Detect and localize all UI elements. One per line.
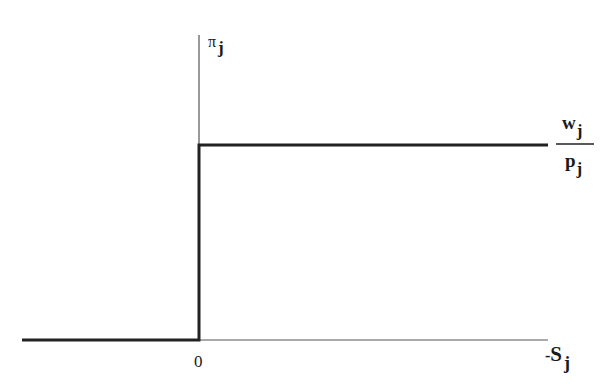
x-axis-subscript: j: [564, 353, 570, 373]
numerator-subscript: j: [577, 121, 583, 140]
step-function-diagram: [0, 0, 610, 384]
x-axis-symbol: S: [550, 342, 562, 366]
denominator-subscript: j: [577, 159, 583, 178]
origin-label: 0: [194, 352, 203, 372]
y-axis-symbol: π: [208, 33, 216, 50]
y-axis-subscript: j: [218, 38, 224, 57]
level-denominator: pj: [565, 150, 581, 172]
numerator-symbol: w: [562, 112, 576, 133]
x-axis-label: -Sj: [545, 342, 568, 367]
level-numerator: wj: [562, 112, 581, 134]
y-axis-label: π j: [208, 32, 226, 52]
denominator-symbol: p: [565, 150, 576, 171]
step-function-line: [22, 145, 548, 340]
